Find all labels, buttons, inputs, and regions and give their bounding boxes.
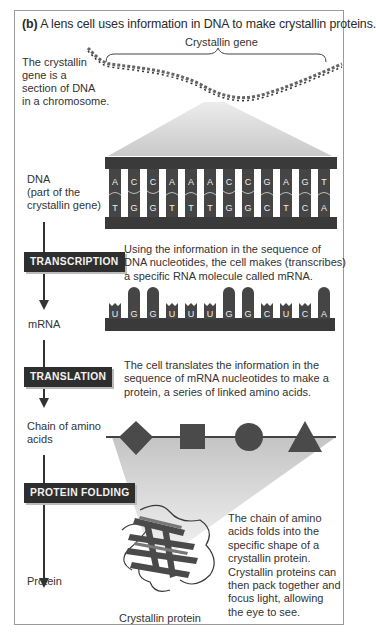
dna-top-base: A bbox=[169, 177, 175, 187]
folding-description: The chain of amino acids folds into the … bbox=[228, 512, 341, 619]
arrow-down-icon bbox=[39, 398, 49, 408]
dna-top-base: C bbox=[245, 177, 252, 187]
translation-description: The cell translates the information in t… bbox=[124, 359, 329, 399]
dna-top-base: C bbox=[150, 177, 157, 187]
dna-top-base: G bbox=[301, 177, 308, 187]
dna-bottom-base: T bbox=[188, 203, 194, 213]
dna-bottom-base: T bbox=[283, 203, 289, 213]
dna-bottom-base: T bbox=[169, 203, 175, 213]
mrna-base: U bbox=[283, 309, 290, 319]
dna-top-base: A bbox=[283, 177, 289, 187]
amino-circle-icon bbox=[235, 423, 263, 451]
dna-bottom-base: C bbox=[302, 203, 309, 213]
dna-base-pairs bbox=[109, 169, 330, 217]
arrow-down-icon bbox=[39, 300, 49, 310]
figure-title: (b) A lens cell uses information in DNA … bbox=[22, 17, 376, 31]
mrna-strand: U G G U U U G G C U C A bbox=[105, 285, 337, 337]
amino-chain-label: Chain of amino acids bbox=[27, 420, 101, 446]
transcription-description: Using the information in the sequence of… bbox=[124, 243, 346, 283]
mrna-base: G bbox=[225, 309, 232, 319]
mrna-base: G bbox=[244, 309, 251, 319]
panel-label: (b) bbox=[22, 17, 38, 31]
dna-bottom-base: C bbox=[264, 203, 271, 213]
step-transcription: TRANSCRIPTION bbox=[24, 252, 125, 272]
title-text: A lens cell uses information in DNA to m… bbox=[40, 17, 376, 31]
mrna-base: U bbox=[169, 309, 176, 319]
mrna-base: A bbox=[321, 309, 327, 319]
mrna-base: G bbox=[149, 309, 156, 319]
dna-bottom-base: G bbox=[149, 203, 156, 213]
dna-bottom-base: G bbox=[244, 203, 251, 213]
step-translation: TRANSLATION bbox=[24, 367, 112, 387]
dna-bottom-base: G bbox=[225, 203, 232, 213]
mrna-base: C bbox=[264, 309, 271, 319]
mrna-base: U bbox=[188, 309, 195, 319]
amino-square-icon bbox=[180, 424, 205, 449]
protein-label: Protein bbox=[27, 575, 62, 588]
crystallin-protein-icon bbox=[110, 500, 230, 600]
dna-top-base: G bbox=[263, 177, 270, 187]
mrna-base: U bbox=[207, 309, 214, 319]
dna-top-base: T bbox=[321, 177, 327, 187]
dna-bottom-base: T bbox=[112, 203, 118, 213]
dna-top-base: A bbox=[207, 177, 213, 187]
dna-bottom-base: G bbox=[130, 203, 137, 213]
flow-arrow-3 bbox=[43, 455, 45, 580]
dna-top-base: C bbox=[131, 177, 138, 187]
protein-caption: Crystallin protein bbox=[119, 612, 201, 625]
dna-top-base: A bbox=[188, 177, 194, 187]
mrna-base: U bbox=[112, 309, 119, 319]
dna-double-strand: A C C A A A C C G A G T T G G T T T G G … bbox=[105, 155, 337, 231]
mrna-label: mRNA bbox=[28, 318, 60, 331]
mrna-base: G bbox=[130, 309, 137, 319]
dna-bottom-base: T bbox=[207, 203, 213, 213]
dna-top-base: A bbox=[112, 177, 118, 187]
mrna-base: C bbox=[302, 309, 309, 319]
dna-label: DNA (part of the crystallin gene) bbox=[27, 173, 101, 212]
dna-bottom-base: A bbox=[321, 203, 327, 213]
dna-top-base: C bbox=[226, 177, 233, 187]
